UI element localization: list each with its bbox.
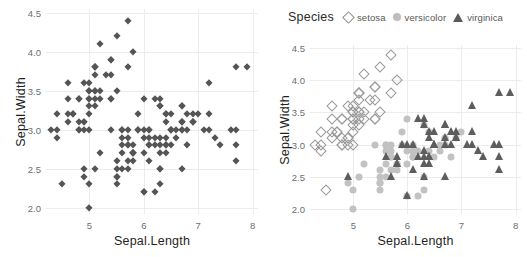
data-point [211, 134, 218, 141]
data-point [124, 165, 131, 172]
x-tick-label: 7 [196, 220, 201, 231]
data-point [205, 79, 212, 86]
data-point [382, 152, 390, 160]
data-point [108, 56, 115, 63]
gridline-vertical [407, 45, 408, 214]
y-tick-label: 2.0 [20, 202, 41, 213]
data-point [91, 103, 98, 110]
plot-area-left [46, 9, 258, 214]
data-point [385, 88, 396, 99]
filled-triangle-icon [453, 13, 463, 22]
data-point [64, 111, 71, 118]
data-point [86, 204, 93, 211]
gridline-horizontal [310, 209, 521, 210]
data-point [321, 184, 332, 195]
data-point [409, 165, 417, 173]
y-tick-label: 4.0 [284, 75, 305, 86]
data-point [113, 157, 120, 164]
x-tick-label: 8 [513, 220, 518, 231]
y-axis-title-right: Sepal.Width [278, 95, 292, 165]
legend-label-setosa: setosa [357, 12, 386, 23]
data-point [156, 134, 163, 141]
y-tick-label: 4.5 [20, 7, 41, 18]
data-point [124, 126, 131, 133]
data-point [80, 165, 87, 172]
gridline-vertical [253, 9, 254, 214]
data-point [205, 111, 212, 118]
x-tick-label: 6 [405, 220, 410, 231]
data-point [441, 172, 449, 180]
data-point [350, 186, 357, 193]
data-point [216, 142, 223, 149]
data-point [391, 75, 402, 86]
data-point [398, 128, 405, 135]
data-point [233, 157, 240, 164]
data-point [414, 114, 422, 122]
gridline-horizontal [46, 208, 258, 209]
data-point [479, 152, 487, 160]
data-point [205, 126, 212, 133]
data-point [436, 148, 443, 155]
data-point [358, 68, 369, 79]
data-point [156, 150, 163, 157]
data-point [403, 191, 411, 199]
legend-label-versicolor: versicolor [405, 12, 447, 23]
data-point [404, 115, 411, 122]
y-tick-label: 3.0 [284, 139, 305, 150]
data-point [124, 64, 131, 71]
data-point [151, 189, 158, 196]
data-point [344, 180, 351, 187]
data-point [156, 103, 163, 110]
gridline-horizontal [46, 13, 258, 14]
legend-title: Species [288, 10, 334, 24]
legend-key-setosa[interactable]: setosa [344, 12, 386, 23]
data-point [140, 95, 147, 102]
data-point [118, 150, 125, 157]
data-point [97, 150, 104, 157]
data-point [162, 111, 169, 118]
legend-key-versicolor[interactable]: versicolor [393, 12, 447, 23]
data-point [468, 140, 476, 148]
data-point [124, 17, 131, 24]
data-point [129, 157, 136, 164]
x-axis-title-right: Sepal.Length [310, 234, 521, 248]
y-tick-label: 4.0 [20, 46, 41, 57]
y-tick-label: 3.5 [284, 107, 305, 118]
data-point [382, 160, 389, 167]
data-point [108, 126, 115, 133]
data-point [135, 126, 142, 133]
data-point [398, 140, 406, 148]
data-point [468, 101, 476, 109]
data-point [156, 181, 163, 188]
x-tick-label: 7 [459, 220, 464, 231]
data-point [91, 165, 98, 172]
scatter-panel-right: Species setosa versicolor virginica Sepa… [264, 0, 527, 257]
data-point [108, 95, 115, 102]
gridline-vertical [516, 45, 517, 214]
data-point [113, 87, 120, 94]
data-point [113, 181, 120, 188]
data-point [178, 118, 185, 125]
x-tick-label: 5 [351, 220, 356, 231]
data-point [344, 172, 352, 180]
plot-area-right [310, 45, 521, 214]
data-point [350, 205, 357, 212]
data-point [377, 167, 384, 174]
data-point [420, 172, 428, 180]
data-point [156, 165, 163, 172]
data-point [91, 64, 98, 71]
gridline-horizontal [46, 169, 258, 170]
x-tick-label: 8 [250, 220, 255, 231]
legend-key-virginica[interactable]: virginica [453, 12, 503, 23]
x-axis-title-left: Sepal.Length [46, 234, 258, 248]
data-point [53, 126, 60, 133]
data-point [97, 40, 104, 47]
data-point [415, 193, 422, 200]
data-point [233, 64, 240, 71]
data-point [129, 150, 136, 157]
data-point [64, 79, 71, 86]
species-legend: Species setosa versicolor virginica [264, 0, 527, 34]
data-point [97, 87, 104, 94]
data-point [468, 127, 476, 135]
data-point [430, 140, 438, 148]
